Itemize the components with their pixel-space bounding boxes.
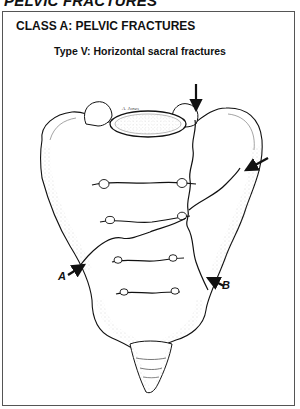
artist-signature: A. Jones: [121, 106, 139, 111]
arrow-a: A: [57, 265, 84, 282]
coccyx: [130, 341, 172, 393]
sacrum-illustration: A. Jones: [0, 0, 300, 409]
sacral-base: [110, 111, 186, 137]
arrow-label-a: A: [57, 270, 66, 282]
sacrum-body: [41, 108, 263, 360]
arrow-label-b: B: [222, 279, 230, 291]
